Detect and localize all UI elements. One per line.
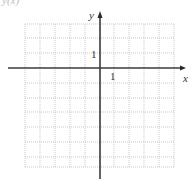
x-axis-arrow-icon [180,66,186,71]
x-axis-label: x [182,72,188,84]
y-axis-label: y [88,9,94,21]
y-axis-arrow-icon [98,11,103,18]
x-tick-label: 1 [110,70,116,82]
y-tick-label: 1 [91,48,97,60]
coordinate-plane: y x 1 1 [0,0,188,179]
